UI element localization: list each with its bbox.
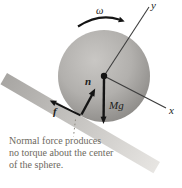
weight-label: Mg bbox=[109, 100, 124, 111]
omega-label: ω bbox=[96, 5, 103, 16]
omega-arrow bbox=[78, 17, 125, 27]
physics-figure: ω y x n Mg f Normal force produces no to… bbox=[0, 0, 182, 188]
x-axis-label: x bbox=[169, 105, 174, 116]
caption-line-2: no torque about the center bbox=[9, 147, 139, 159]
caption-line-1: Normal force produces bbox=[9, 135, 139, 147]
friction-label: f bbox=[53, 106, 57, 117]
center-dot bbox=[101, 73, 107, 79]
normal-force-label: n bbox=[85, 76, 91, 87]
y-axis-label: y bbox=[151, 0, 156, 11]
omega-arrowhead bbox=[118, 17, 125, 23]
caption-line-3: of the sphere. bbox=[9, 159, 139, 171]
figure-caption: Normal force produces no torque about th… bbox=[9, 135, 139, 171]
